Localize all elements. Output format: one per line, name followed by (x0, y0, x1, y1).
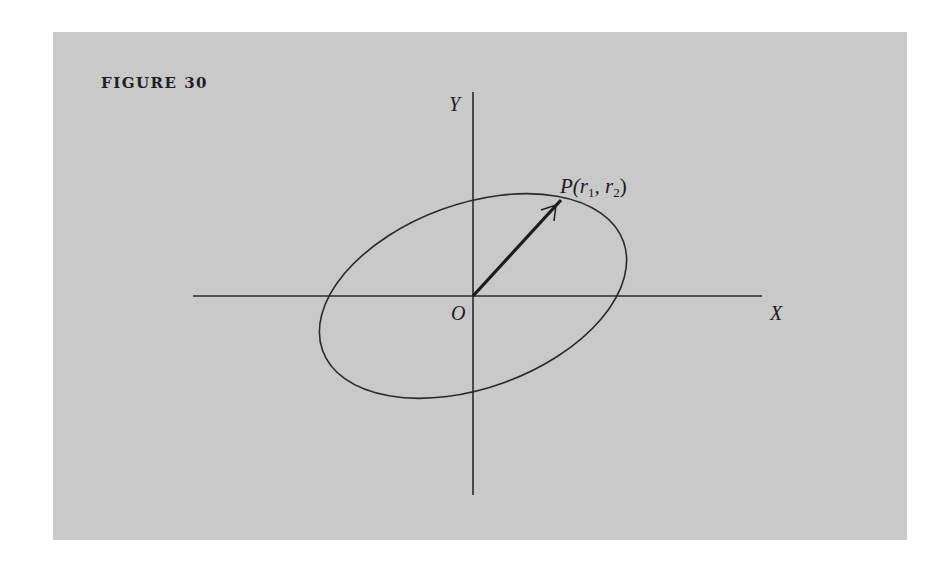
x-axis-label: X (769, 302, 783, 324)
point-label-main: P(r (559, 174, 589, 198)
point-label: P(r1, r2) (559, 174, 627, 200)
y-axis-label: Y (449, 93, 462, 115)
point-label-sep: , r (595, 174, 615, 198)
origin-label: O (451, 302, 465, 324)
point-label-close: ) (620, 174, 627, 198)
ellipse-diagram: Y X O P(r1, r2) (0, 0, 952, 569)
position-vector (473, 200, 561, 296)
